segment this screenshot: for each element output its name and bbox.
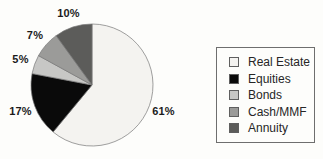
legend-swatch-bonds (229, 90, 239, 100)
legend-label-real-estate: Real Estate (248, 56, 310, 68)
legend-item-cash-mmf: Cash/MMF (229, 106, 309, 118)
legend-item-annuity: Annuity (229, 122, 309, 134)
legend-label-equities: Equities (248, 73, 291, 85)
slice-label-bonds: 5% (12, 54, 28, 65)
legend-label-bonds: Bonds (248, 89, 282, 101)
legend-item-real-estate: Real Estate (229, 56, 309, 68)
legend-swatch-real-estate (229, 57, 239, 67)
legend-label-cash-mmf: Cash/MMF (248, 106, 307, 118)
slice-label-cash-mmf: 7% (27, 29, 43, 40)
pie-chart (27, 20, 157, 150)
legend: Real EstateEquitiesBondsCash/MMFAnnuity (216, 47, 315, 143)
legend-swatch-annuity (229, 123, 239, 133)
legend-swatch-equities (229, 74, 239, 84)
slice-label-annuity: 10% (57, 7, 80, 18)
slice-label-real-estate: 61% (152, 105, 175, 116)
slice-label-equities: 17% (9, 105, 32, 116)
legend-label-annuity: Annuity (248, 122, 288, 134)
legend-item-equities: Equities (229, 73, 309, 85)
legend-swatch-cash-mmf (229, 107, 239, 117)
pie-chart-figure: 61%17%5%7%10% Real EstateEquitiesBondsCa… (0, 0, 323, 159)
legend-item-bonds: Bonds (229, 89, 309, 101)
